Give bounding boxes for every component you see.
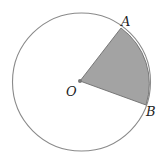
- label-o: O: [66, 84, 77, 99]
- sector-diagram: A O B: [0, 0, 166, 158]
- center-point-o: [78, 79, 82, 83]
- label-a: A: [120, 14, 130, 29]
- label-b: B: [145, 104, 156, 119]
- shaded-sector-aob: [80, 28, 149, 105]
